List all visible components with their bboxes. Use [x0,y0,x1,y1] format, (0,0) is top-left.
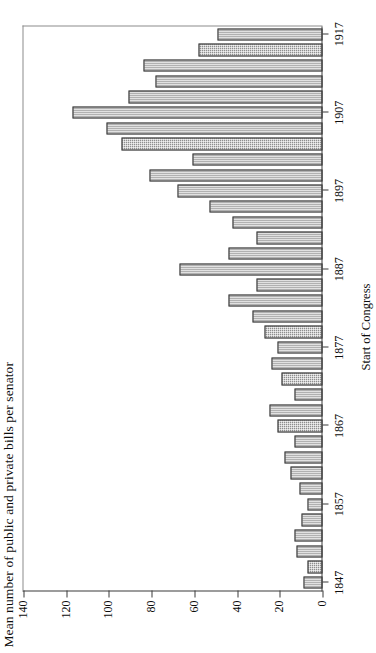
bar [209,200,322,213]
x-axis-tick-label: 1907 [331,100,346,124]
y-axis-tick-label: 80 [144,600,159,612]
bar [264,325,322,338]
y-axis-tick-label: 100 [101,600,116,618]
x-axis-tick-label: 1847 [331,570,346,594]
bar [284,451,322,464]
bar [121,137,322,150]
bar-chart-figure: Mean number of public and private bills … [0,0,376,653]
x-axis-tick-label: 1887 [331,257,346,281]
bar [271,357,322,370]
bar [299,482,322,495]
bar [198,43,322,56]
x-axis-tick [322,33,328,34]
x-axis-tick-label: 1897 [331,179,346,203]
y-axis-tick [194,590,195,597]
x-axis-tick [322,111,328,112]
x-axis-tick-label: 1857 [331,492,346,516]
bar [277,419,322,432]
y-axis-tick-label: 0 [315,600,330,606]
bar [294,388,322,401]
bar [277,341,322,354]
bar [307,498,322,511]
y-axis-tick [108,590,109,597]
x-axis-tick [322,581,328,582]
y-axis-tick-label: 20 [272,600,287,612]
x-axis-title: Start of Congress [358,0,373,653]
plot-area: 0204060801001201401847185718671877188718… [22,25,322,591]
x-axis-tick-label: 1877 [331,335,346,359]
x-axis-tick [322,268,328,269]
bar [256,231,322,244]
y-axis-tick-label: 60 [186,600,201,612]
y-axis-tick [322,590,323,597]
y-axis-title: Mean number of public and private bills … [0,0,16,647]
y-axis-tick [23,590,24,597]
bar [192,153,322,166]
bar [252,310,322,323]
bar [232,216,322,229]
bar [303,576,322,589]
bar [228,247,322,260]
bar [301,513,322,526]
x-axis-tick [322,503,328,504]
bar [72,106,322,119]
bar [179,263,322,276]
y-axis-tick-label: 40 [229,600,244,612]
y-axis-tick [279,590,280,597]
bar [296,545,322,558]
y-axis-tick-label: 120 [58,600,73,618]
bar [228,294,322,307]
y-axis-tick-label: 140 [16,600,31,618]
bar [307,560,322,573]
bar [155,75,322,88]
bar [149,169,322,182]
x-axis-tick [322,346,328,347]
x-axis-tick [322,425,328,426]
x-axis-tick-label: 1917 [331,22,346,46]
bar [256,278,322,291]
bar [294,435,322,448]
bar [294,529,322,542]
bar [143,59,322,72]
y-axis-tick [151,590,152,597]
bar [217,28,322,41]
bar [281,372,322,385]
bar [128,90,322,103]
y-axis-tick [237,590,238,597]
bar [106,122,322,135]
y-axis-tick [66,590,67,597]
x-axis-tick-label: 1867 [331,414,346,438]
bar [290,466,322,479]
bar [177,184,322,197]
bar [269,404,322,417]
x-axis-tick [322,190,328,191]
chart-canvas: Mean number of public and private bills … [0,0,376,653]
